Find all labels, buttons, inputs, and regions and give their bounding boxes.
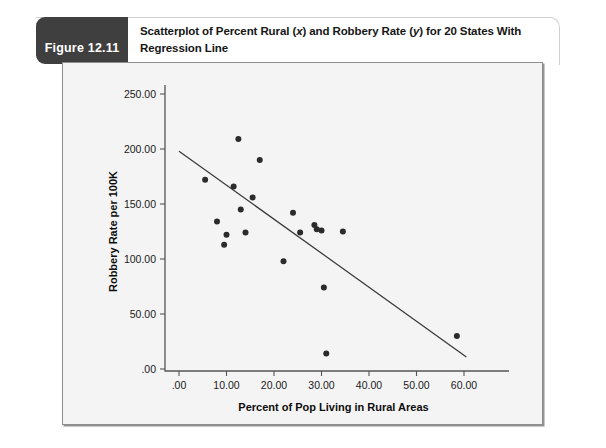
x-tick-label: .00 — [172, 379, 187, 391]
figure-header: Figure 12.11 Scatterplot of Percent Rura… — [36, 17, 560, 65]
data-point — [250, 194, 256, 200]
data-point — [238, 207, 244, 213]
y-tick-label: 50.00 — [130, 308, 156, 320]
x-tick-label: 20.00 — [261, 379, 287, 391]
x-tick-label: 30.00 — [308, 379, 334, 391]
y-tick-label: 250.00 — [124, 88, 156, 100]
data-point — [214, 219, 220, 225]
x-tick-label: 10.00 — [213, 379, 239, 391]
data-point — [297, 230, 303, 236]
figure-root: Figure 12.11 Scatterplot of Percent Rura… — [0, 0, 606, 448]
data-point — [454, 333, 460, 339]
x-axis-title: Percent of Pop Living in Rural Areas — [238, 401, 428, 413]
caption-part-2: ) and Robbery Rate ( — [302, 25, 412, 37]
data-point — [235, 136, 241, 142]
y-tick-label: 200.00 — [124, 143, 156, 155]
data-point — [202, 177, 208, 183]
regression-line — [179, 151, 466, 357]
y-tick-label: 100.00 — [124, 253, 156, 265]
data-point — [257, 157, 263, 163]
scatterplot-svg: .0050.00100.00150.00200.00250.00.0010.00… — [63, 63, 544, 426]
y-tick-label: .00 — [141, 363, 156, 375]
y-axis-title: Robbery Rate per 100K — [107, 171, 119, 292]
data-point — [221, 242, 227, 248]
caption-line-2: Regression Line — [140, 42, 228, 54]
plot-axes — [165, 85, 509, 371]
x-tick-label: 50.00 — [403, 379, 429, 391]
data-point — [224, 232, 230, 238]
data-point — [243, 230, 249, 236]
data-point — [321, 285, 327, 291]
figure-number-label: Figure 12.11 — [45, 41, 120, 55]
data-point — [323, 351, 329, 357]
figure-number-tag: Figure 12.11 — [36, 17, 128, 64]
scatterplot-panel: .0050.00100.00150.00200.00250.00.0010.00… — [62, 62, 543, 425]
x-tick-label: 40.00 — [356, 379, 382, 391]
data-point — [231, 183, 237, 189]
x-tick-label: 60.00 — [451, 379, 477, 391]
caption-part-3: ) for 20 States With — [419, 25, 521, 37]
data-point — [281, 258, 287, 264]
y-tick-label: 150.00 — [124, 198, 156, 210]
data-point — [340, 229, 346, 235]
figure-caption: Scatterplot of Percent Rural (x) and Rob… — [140, 23, 550, 57]
data-point — [290, 210, 296, 216]
data-point — [319, 227, 325, 233]
caption-part-1: Scatterplot of Percent Rural ( — [140, 25, 296, 37]
